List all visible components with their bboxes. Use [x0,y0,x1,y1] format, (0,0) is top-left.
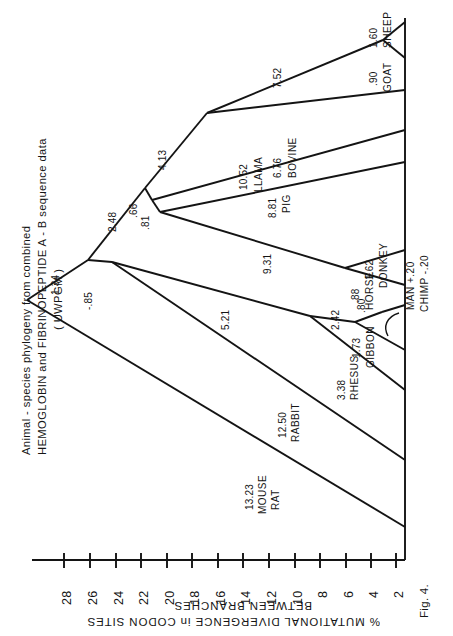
taxon-label-llama: LLAMA [253,157,264,192]
tick-label-8: 8 [316,591,330,598]
taxon-label-goat: GOAT [382,62,393,92]
branch-value-7-52: 7.52 [272,68,283,88]
taxon-label-rat: RAT [270,489,281,510]
taxon-label-sheep: SHEEP [382,12,393,48]
taxon-label-rhesus: RHESUS [349,355,360,400]
branch-horse [345,268,405,285]
branch-value-13-23: 13.23 [244,484,255,510]
tick-label-24: 24 [112,590,126,605]
branch-value-3-38: 3.38 [336,380,347,400]
figure-number-label: Fig. 4. [418,584,430,618]
branch-value-8-81: 8.81 [267,198,278,218]
branch-root-to-rat [27,300,405,527]
branch-gibbon [355,322,405,350]
branch-4-13 [145,113,207,188]
tick-label-22: 22 [137,590,151,605]
tick-label-6: 6 [342,591,356,598]
x-axis-title-line-2: BETWEEN BRANCHES [174,600,312,612]
taxon-label-mouse: MOUSE [257,475,268,514]
branch-5-21 [112,262,310,316]
branch-value-10-52: 10.52 [238,164,249,190]
taxon-label-donkey: DONKEY [378,243,389,288]
tick-label-2: 2 [392,591,406,598]
branch-value-5-21: 5.21 [220,310,231,330]
branch-value-6-76: 6.76 [272,158,283,178]
branch-man-chimp [382,305,405,312]
branch-value-4-13: 4.13 [157,150,168,170]
tick-label-26: 26 [86,590,100,605]
man-chimp-brace [386,313,399,336]
branch-node-81 [152,200,160,212]
branch-node-66 [145,188,152,200]
figure-title-line-2: HEMOGLOBIN and FIBRINOPEPTIDE A - B sequ… [36,138,48,455]
taxon-label-rabbit: RABBIT [290,403,301,442]
branch-value-0-81: .81 [140,215,151,230]
tick-label-28: 28 [60,590,74,605]
taxon-label-pig: PIG [281,194,292,213]
figure-canvas: Animal - species phylogeny from combined… [0,0,453,636]
branch-value-9-31: 9.31 [262,254,273,274]
branch-value-0-66: .66 [128,203,139,218]
taxon-label-horse: HORSE [364,272,375,310]
x-axis-title-line-1: % MUTATIONAL DIVERGENCE in CODON SITES [87,616,380,628]
branch-value-12-50: 12.50 [277,412,288,438]
branch-value-2-48: 2.48 [107,212,118,232]
branch-rabbit [112,262,405,460]
branch-value-neg-0-85: -.85 [83,292,94,310]
figure-title-line-1: Animal - species phylogeny from combined [20,226,32,455]
taxon-label-gibbon: GIBBON [365,326,376,368]
taxon-label-man: MAN +.20 [405,261,416,310]
branch-donkey [345,250,405,268]
taxon-label-bovine: BOVINE [287,137,298,178]
branch-value-1-34: 1.34 [50,275,61,295]
taxon-label-chimp: CHIMP -.20 [419,255,430,312]
tick-label-4: 4 [367,591,381,598]
branch-node-m85 [88,260,112,262]
branch-9-31 [160,212,345,268]
branch-value-0-90: .90 [368,71,379,86]
branch-0-80 [355,312,382,322]
branch-value-1-60: 1.60 [368,28,379,48]
branch-value-2-42: 2.42 [330,310,341,330]
